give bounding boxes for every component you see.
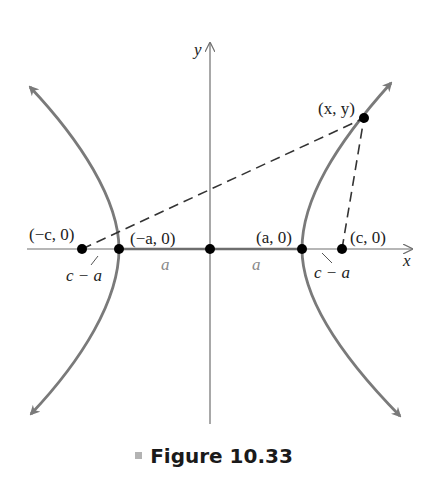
point-neg-c: [77, 244, 87, 254]
label-right-gap: c − a: [314, 263, 350, 282]
point-origin: [205, 244, 215, 254]
caption-marker-icon: [135, 452, 142, 459]
label-left-a: a: [161, 255, 170, 274]
tick-right-gap: [322, 253, 332, 263]
figure-caption: Figure 10.33: [0, 444, 428, 468]
label-pos-a: (a, 0): [256, 228, 292, 247]
point-pos-a: [297, 244, 307, 254]
label-right-a: a: [252, 255, 261, 274]
label-left-gap: c − a: [66, 266, 102, 285]
hyperbola-diagram: y x (−c, 0) (−a, 0) (a, 0) (c, 0) (x, y)…: [0, 0, 428, 482]
dashed-line-left-focus: [82, 118, 364, 249]
point-xy: [359, 113, 369, 123]
label-neg-a: (−a, 0): [130, 229, 175, 248]
point-neg-a: [114, 244, 124, 254]
point-pos-c: [337, 244, 347, 254]
label-neg-c: (−c, 0): [29, 225, 74, 244]
tick-left-gap: [91, 256, 98, 265]
label-xy: (x, y): [318, 99, 355, 118]
y-axis-label: y: [192, 40, 202, 59]
x-axis-label: x: [402, 251, 411, 270]
caption-text: Figure 10.33: [150, 444, 293, 468]
label-pos-c: (c, 0): [350, 228, 386, 247]
